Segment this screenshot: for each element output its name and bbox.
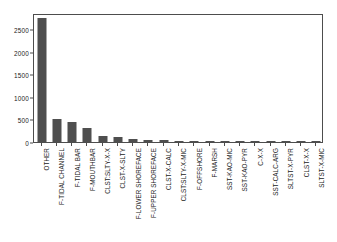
bar-slot: [65, 15, 80, 142]
bar[interactable]: [113, 137, 122, 142]
bar[interactable]: [129, 139, 138, 142]
bar[interactable]: [205, 141, 214, 142]
x-axis-tick-mark: [315, 143, 316, 146]
x-axis-tick-label: SLTST-X-PYR: [287, 148, 294, 189]
bar-slot: [156, 15, 171, 142]
y-axis-tick-label: 1500: [14, 72, 29, 79]
bar[interactable]: [266, 141, 275, 142]
x-axis-ticks: [33, 143, 323, 147]
y-axis-tick-label: 500: [18, 117, 29, 124]
x-axis-tick-mark: [224, 143, 225, 146]
bar[interactable]: [297, 141, 306, 142]
y-axis-tick-label: 1000: [14, 94, 29, 101]
bar-chart-figure: 05001000150020002500 OTHERF-TIDAL CHANNE…: [0, 0, 337, 242]
bar[interactable]: [220, 141, 229, 142]
x-axis-tick-mark: [56, 143, 57, 146]
x-axis-tick-label: C-X-X: [257, 148, 264, 166]
x-axis-tick-mark: [117, 143, 118, 146]
y-axis-tick-label: 0: [25, 140, 29, 147]
x-axis-tick-label: OTHER: [43, 148, 50, 171]
bar-slot: [95, 15, 110, 142]
y-axis-tick-label: 2000: [14, 49, 29, 56]
x-axis-tick-label: F-UPPER SHOREFACE: [150, 148, 157, 218]
x-axis-tick-label: CLST:SLTY-X-MIC: [180, 148, 187, 201]
bar-slot: [217, 15, 232, 142]
x-axis-tick-mark: [270, 143, 271, 146]
x-axis-tick-label: SST-KAO-MIC: [226, 148, 233, 190]
bar-slot: [232, 15, 247, 142]
x-axis-tick-mark: [178, 143, 179, 146]
x-axis-tick-mark: [41, 143, 42, 146]
bar[interactable]: [174, 141, 183, 142]
x-axis-tick-mark: [71, 143, 72, 146]
x-axis-tick-label: CLST-X-SLTY: [119, 148, 126, 189]
bar[interactable]: [190, 141, 199, 142]
bar-slot: [141, 15, 156, 142]
bar-slot: [278, 15, 293, 142]
y-axis: 05001000150020002500: [0, 14, 33, 143]
bar-slot: [126, 15, 141, 142]
bar[interactable]: [236, 141, 245, 142]
bar[interactable]: [251, 141, 260, 142]
x-axis-tick-label: F-MARSH: [211, 148, 218, 177]
x-axis-tick-label: SST-CALC-ARG: [272, 148, 279, 196]
bar[interactable]: [98, 136, 107, 142]
x-axis-tick-label: F-TIDAL BAR: [74, 148, 81, 187]
bar-slot: [49, 15, 64, 142]
x-axis-tick-label: SLTST-X-MIC: [318, 148, 325, 188]
bar[interactable]: [68, 122, 77, 142]
x-axis-tick-label: F-LOWER SHOREFACE: [135, 148, 142, 219]
x-axis-tick-mark: [300, 143, 301, 146]
bar[interactable]: [83, 128, 92, 142]
bar-slot: [263, 15, 278, 142]
x-axis-tick-mark: [132, 143, 133, 146]
bar-slot: [34, 15, 49, 142]
bar[interactable]: [144, 140, 153, 142]
bar-slot: [293, 15, 308, 142]
x-axis-tick-label: F-OFFSHORE: [196, 148, 203, 190]
x-axis-tick-mark: [254, 143, 255, 146]
x-axis-tick-label: CLST:SLTY-X-X: [104, 148, 111, 194]
bar[interactable]: [52, 119, 61, 142]
x-axis-tick-label: CLST-X-X: [303, 148, 310, 177]
bar-slot: [309, 15, 324, 142]
x-axis-tick-label: F-TIDAL CHANNEL: [58, 148, 65, 205]
bar[interactable]: [37, 18, 46, 142]
bar[interactable]: [281, 141, 290, 142]
x-axis-tick-label: CLST-X-CALC: [165, 148, 172, 190]
x-axis-labels: OTHERF-TIDAL CHANNELF-TIDAL BARF-MOUTHBA…: [33, 148, 323, 238]
x-axis-tick-mark: [239, 143, 240, 146]
bar-slot: [202, 15, 217, 142]
bar-slot: [187, 15, 202, 142]
plot-area: [33, 14, 323, 143]
x-axis-tick-mark: [147, 143, 148, 146]
x-axis-tick-mark: [163, 143, 164, 146]
bar-slot: [248, 15, 263, 142]
bars-layer: [34, 15, 322, 142]
bar-slot: [110, 15, 125, 142]
bar[interactable]: [312, 141, 321, 142]
y-axis-tick-label: 2500: [14, 27, 29, 34]
bar-slot: [80, 15, 95, 142]
x-axis-tick-label: F-MOUTHBAR: [89, 148, 96, 191]
x-axis-tick-label: SST-KAO-PYR: [241, 148, 248, 191]
x-axis-tick-mark: [102, 143, 103, 146]
bar-slot: [171, 15, 186, 142]
x-axis-tick-mark: [209, 143, 210, 146]
bar[interactable]: [159, 140, 168, 142]
x-axis-tick-mark: [86, 143, 87, 146]
x-axis-tick-mark: [285, 143, 286, 146]
x-axis-tick-mark: [193, 143, 194, 146]
